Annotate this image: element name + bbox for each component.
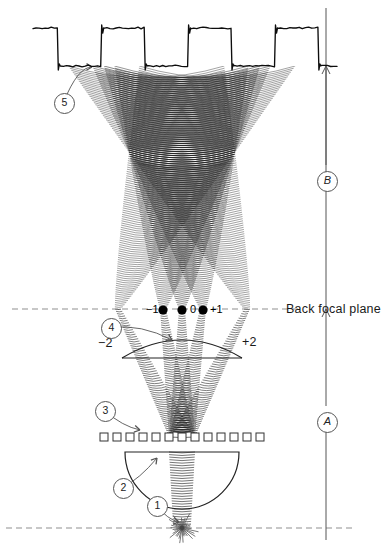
square-wave-trace [33, 25, 337, 70]
dimension-marker-B: B [317, 171, 338, 192]
callout-1-light-source[interactable]: 1 [147, 496, 168, 517]
callout-2-condenser-lens[interactable]: 2 [113, 478, 134, 499]
order-label-minus1: −1 [146, 303, 159, 315]
callout-4-objective-lens[interactable]: 4 [101, 318, 122, 339]
back-focal-plane-label: Back focal plane [286, 302, 381, 316]
order-label-plus2: +2 [242, 335, 257, 349]
callout-3-specimen-grating[interactable]: 3 [95, 401, 116, 422]
callout-5-intensity-trace[interactable]: 5 [54, 93, 75, 114]
dimension-marker-A: A [317, 412, 338, 433]
order-label-plus1: +1 [210, 303, 223, 315]
order-label-zero: 0 [190, 303, 196, 315]
